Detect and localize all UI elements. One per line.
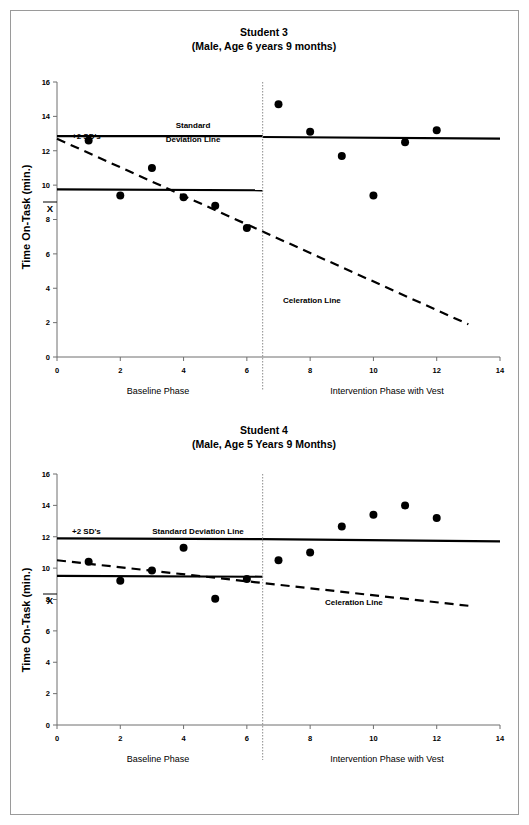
data-point [180, 193, 188, 201]
data-point [275, 556, 283, 564]
data-point [338, 523, 346, 531]
chart-svg-student-3: Student 3 (Male, Age 6 years 9 months) T… [10, 12, 519, 412]
standard-deviation-line [263, 137, 500, 139]
x-tick-label: 14 [496, 734, 505, 743]
x-tick-label: 10 [369, 734, 377, 743]
data-point [306, 548, 314, 556]
chart-svg-student-4: Student 4 (Male, Age 5 Years 9 Months) T… [10, 412, 519, 812]
sd-value-label: +2 SD's [72, 527, 101, 536]
x-tick-label: 12 [433, 734, 441, 743]
sd-line-label: Standard Deviation Line [152, 527, 244, 536]
data-point [369, 191, 377, 199]
plot-area: 0246810121416 02468101214 [42, 78, 505, 390]
phase-label-baseline: Baseline Phase [127, 386, 190, 396]
sd-value-label: +2 SD's [72, 132, 101, 141]
chart-title: Student 3 [240, 26, 288, 38]
y-axis-title: Time On-Task (min.) [20, 164, 32, 269]
y-tick-label: 12 [42, 533, 50, 542]
y-tick-label: 16 [42, 470, 50, 479]
phase-label-intervention: Intervention Phase with Vest [330, 386, 444, 396]
data-point [433, 126, 441, 134]
x-tick-label: 8 [308, 734, 312, 743]
y-tick-label: 2 [46, 689, 50, 698]
data-point [116, 577, 124, 585]
phase-label-intervention: Intervention Phase with Vest [330, 754, 444, 764]
y-tick-label: 4 [46, 284, 51, 293]
x-tick-label: 6 [245, 366, 249, 375]
data-point [369, 511, 377, 519]
y-tick-label: 0 [46, 353, 50, 362]
chart-title: Student 4 [240, 424, 288, 436]
reference-line-group [57, 538, 500, 605]
x-tick-label: 0 [55, 734, 59, 743]
y-tick-label: 6 [46, 250, 50, 259]
y-tick-label: 10 [42, 564, 50, 573]
mean-line [57, 189, 263, 190]
chart-subtitle: (Male, Age 6 years 9 months) [192, 40, 336, 52]
standard-deviation-line [263, 539, 500, 541]
phase-label-baseline: Baseline Phase [127, 754, 190, 764]
y-tick-label: 14 [42, 501, 51, 510]
celeration-line-label: Celeration Line [325, 598, 383, 607]
data-point [243, 575, 251, 583]
mean-line [57, 576, 263, 577]
celeration-line-label: Celeration Line [283, 296, 341, 305]
x-tick-label: 10 [369, 366, 377, 375]
x-tick-label: 2 [118, 734, 122, 743]
y-tick-label: 14 [42, 112, 51, 121]
chart-subtitle: (Male, Age 5 Years 9 Months) [192, 438, 336, 450]
data-point [85, 558, 93, 566]
y-tick-group: 0246810121416 [42, 78, 57, 362]
axes [57, 474, 500, 725]
x-tick-label: 14 [496, 366, 505, 375]
y-tick-label: 4 [46, 658, 51, 667]
data-point [211, 595, 219, 603]
data-point [306, 128, 314, 136]
x-tick-group: 02468101214 [55, 725, 505, 743]
y-tick-label: 8 [46, 215, 50, 224]
sd-line-label-line1: Standard [176, 121, 211, 130]
data-point [148, 566, 156, 574]
figure-page: Student 3 (Male, Age 6 years 9 months) T… [0, 0, 529, 825]
y-tick-label: 12 [42, 147, 50, 156]
data-point [211, 202, 219, 210]
x-tick-label: 6 [245, 734, 249, 743]
x-tick-label: 4 [181, 734, 186, 743]
x-tick-label: 0 [55, 366, 59, 375]
y-tick-label: 6 [46, 627, 50, 636]
chart-student-3: Student 3 (Male, Age 6 years 9 months) T… [10, 12, 519, 412]
mean-symbol-label: X [47, 595, 54, 606]
data-point [148, 164, 156, 172]
sd-line-label-line2: Deviation Line [166, 135, 221, 144]
mean-symbol-label: X [47, 203, 54, 214]
x-tick-label: 12 [433, 366, 441, 375]
y-tick-label: 0 [46, 721, 50, 730]
x-tick-group: 02468101214 [55, 357, 505, 375]
y-axis-title: Time On-Task (min.) [20, 567, 32, 672]
standard-deviation-line [57, 538, 263, 539]
data-point [338, 152, 346, 160]
y-tick-label: 10 [42, 181, 50, 190]
x-tick-label: 4 [181, 366, 186, 375]
y-tick-label: 16 [42, 78, 50, 87]
axes [57, 82, 500, 357]
data-point [116, 191, 124, 199]
data-point [401, 501, 409, 509]
reference-line-group [57, 136, 500, 324]
x-tick-label: 8 [308, 366, 312, 375]
y-tick-label: 2 [46, 318, 50, 327]
data-point [433, 514, 441, 522]
data-point [243, 224, 251, 232]
chart-student-4: Student 4 (Male, Age 5 Years 9 Months) T… [10, 412, 519, 812]
x-tick-label: 2 [118, 366, 122, 375]
data-point [180, 544, 188, 552]
data-point [275, 100, 283, 108]
data-point [401, 138, 409, 146]
plot-area: 0246810121416 02468101214 [42, 470, 505, 760]
